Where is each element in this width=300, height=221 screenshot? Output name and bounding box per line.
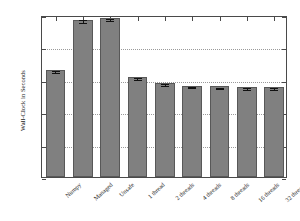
x-tick-label: Managed bbox=[92, 181, 114, 202]
bar-chart: Wall-Clock in Seconds 050100150200250 Nu… bbox=[0, 0, 300, 221]
x-tick-label: 4 threads bbox=[201, 181, 222, 201]
x-tick-label: 16 threads bbox=[257, 181, 281, 203]
x-tick-label: 1 thread bbox=[146, 181, 166, 200]
x-tick-label: Numpy bbox=[63, 181, 81, 199]
x-tick-label: 2 threads bbox=[174, 181, 195, 201]
x-tick-label: 8 threads bbox=[228, 181, 249, 201]
x-axis-tick-labels: NumpyManagedUnsafe1 thread2 threads4 thr… bbox=[0, 0, 300, 221]
x-tick-label: 32 threads bbox=[284, 181, 300, 203]
x-tick-label: Unsafe bbox=[118, 181, 136, 198]
